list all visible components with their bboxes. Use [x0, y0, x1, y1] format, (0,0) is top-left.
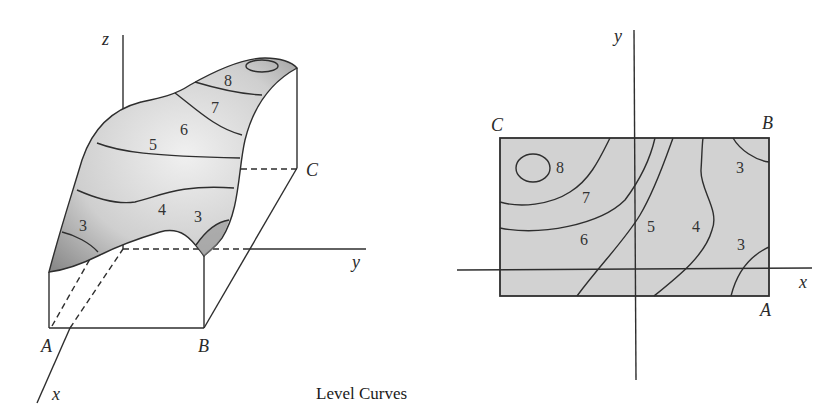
map-x-axis-label: x [798, 272, 807, 292]
map-level-8: 8 [556, 159, 564, 176]
figure-caption: Level Curves [316, 384, 407, 404]
map-corner-label-b: B [762, 113, 773, 133]
surface-level-8: 8 [224, 72, 232, 89]
map-level-4: 4 [692, 218, 700, 235]
corner-label-a: A [40, 336, 53, 356]
y-axis-label: y [350, 252, 360, 272]
corner-label-c: C [306, 160, 319, 180]
surface-level-5: 5 [149, 136, 157, 153]
map-level-7: 7 [582, 189, 590, 206]
map-level-3-top: 3 [736, 159, 744, 176]
surface [49, 58, 297, 272]
surface-level-6: 6 [180, 121, 188, 138]
corner-label-b: B [198, 336, 209, 356]
map-corner-label-a: A [759, 300, 772, 320]
map-corner-label-c: C [491, 115, 504, 135]
map-level-5: 5 [647, 218, 655, 235]
map-level-3-bottom: 3 [737, 236, 745, 253]
map-level-6: 6 [580, 231, 588, 248]
level-curves-figure: z C y A B x 8 7 6 5 4 3 3 y C B x A 8 7 … [0, 0, 838, 416]
contour-map [457, 30, 812, 380]
surface-level-3-right: 3 [194, 208, 202, 225]
z-axis-label: z [101, 29, 109, 49]
surface-level-4: 4 [158, 201, 166, 218]
surface-level-3-left: 3 [79, 217, 87, 234]
map-y-axis-label: y [612, 26, 622, 46]
x-axis-label: x [51, 384, 60, 404]
surface-level-7: 7 [211, 99, 219, 116]
map-y-axis [634, 30, 636, 380]
